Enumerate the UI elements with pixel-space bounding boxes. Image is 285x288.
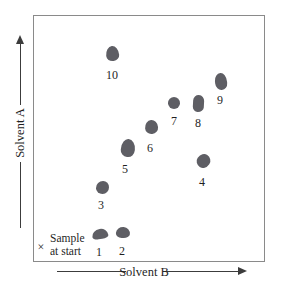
- spot-8: [192, 94, 204, 112]
- sample-origin-label-line1: Sample: [50, 232, 85, 245]
- sample-origin-cross-icon: ×: [38, 240, 45, 255]
- right-arrowhead-icon: [238, 267, 247, 275]
- x-axis-line-right: [163, 271, 240, 272]
- spot-label-10: 10: [106, 68, 118, 83]
- spot-label-6: 6: [147, 141, 153, 156]
- spot-label-8: 8: [195, 116, 201, 131]
- y-axis-label: Solvent A: [13, 108, 28, 158]
- up-arrowhead-icon: [16, 35, 24, 44]
- sample-origin-label-line2: at start: [50, 245, 85, 258]
- spot-label-7: 7: [171, 114, 177, 129]
- spot-label-3: 3: [98, 198, 104, 213]
- chromatogram-figure: Solvent A Solvent B × Sample at start 12…: [0, 0, 285, 288]
- spot-label-5: 5: [122, 162, 128, 177]
- y-axis-line-upper: [20, 42, 21, 105]
- sample-origin-label: Sample at start: [50, 232, 85, 257]
- y-axis-line-lower: [20, 162, 21, 228]
- spot-label-4: 4: [199, 175, 205, 190]
- x-axis-line-left: [57, 271, 126, 272]
- spot-6: [144, 119, 158, 134]
- spot-label-9: 9: [217, 93, 223, 108]
- spot-label-1: 1: [96, 245, 102, 260]
- chromatography-plate: [33, 15, 265, 262]
- spot-3: [96, 181, 109, 194]
- spot-7: [168, 97, 180, 109]
- spot-label-2: 2: [119, 244, 125, 259]
- x-axis-label: Solvent B: [119, 265, 169, 280]
